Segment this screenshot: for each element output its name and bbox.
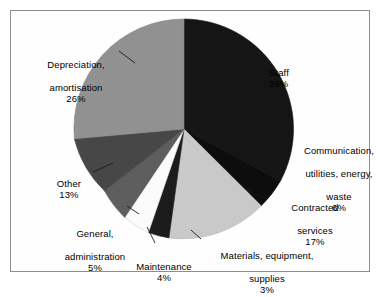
- slice-label-text: Staff: [269, 67, 289, 78]
- chart-frame: Depreciation, amortisation 26% Staff 26%…: [10, 10, 370, 272]
- slice-label-percent: 26%: [269, 78, 325, 90]
- slice-label-percent: 13%: [39, 189, 99, 201]
- slice-label-percent: 3%: [203, 284, 331, 296]
- slice-label-text-2: supplies: [249, 273, 285, 284]
- slice-label-text: Contracted: [291, 202, 338, 213]
- slice-label-text: Other: [57, 178, 81, 189]
- slice-label-text-2: utilities, energy,: [305, 168, 372, 179]
- slice-label-text-2: services: [297, 225, 333, 236]
- slice-label-text-2: amortisation: [50, 82, 103, 93]
- slice-label-text: Communication,: [304, 145, 374, 156]
- slice-label-other: Other 13%: [39, 166, 99, 212]
- slice-label-general-administration: General, administration 5%: [45, 216, 145, 285]
- slice-label-text: Depreciation,: [47, 59, 104, 70]
- slice-label-staff: Staff 26%: [269, 55, 325, 101]
- slice-label-materials: Materials, equipment, supplies 3%: [203, 238, 331, 297]
- slice-label-text-2: administration: [65, 251, 126, 262]
- slice-label-percent: 26%: [23, 93, 129, 105]
- pie-chart: Depreciation, amortisation 26% Staff 26%…: [11, 11, 369, 271]
- slice-label-depreciation-amortisation: Depreciation, amortisation 26%: [23, 47, 129, 116]
- slice-label-percent: 5%: [45, 262, 145, 274]
- slice-label-text: General,: [76, 228, 113, 239]
- slice-label-text: Materials, equipment,: [221, 250, 314, 261]
